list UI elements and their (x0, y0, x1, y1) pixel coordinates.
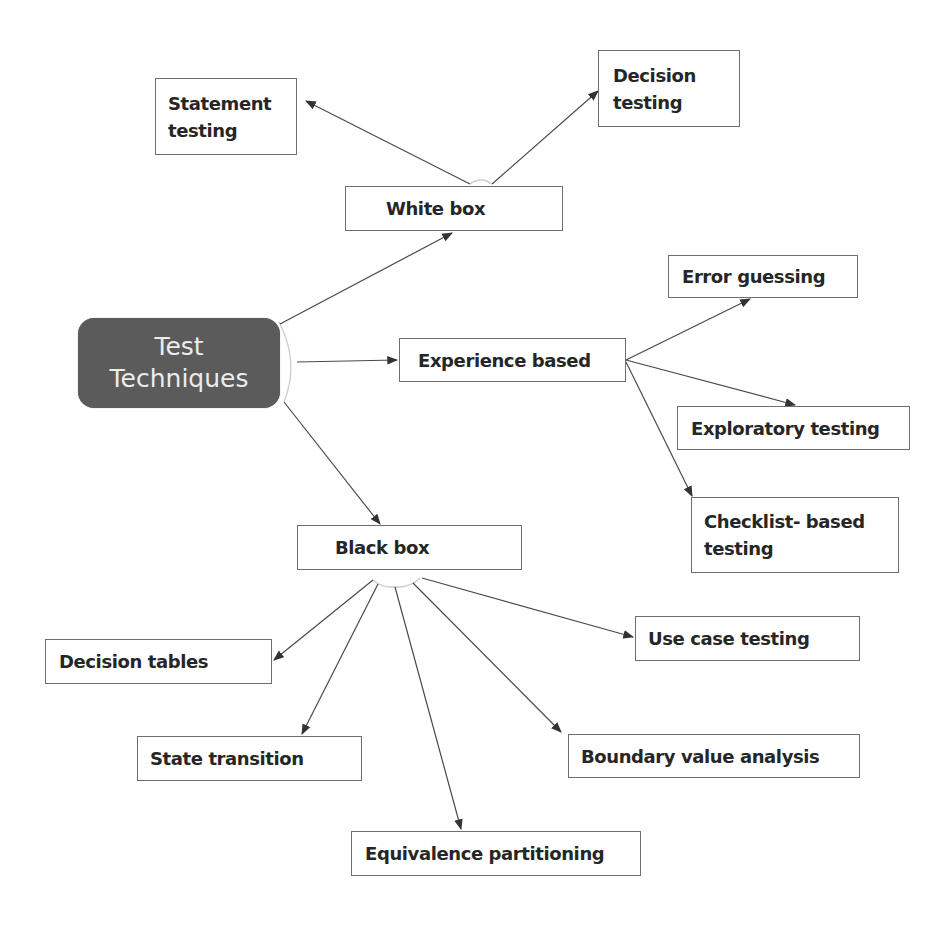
node-black-box-label: Black box (335, 534, 429, 561)
node-error-guessing-label: Error guessing (682, 263, 825, 290)
root-label-line1: Test (154, 331, 203, 363)
link-blackbox-boundary (413, 583, 561, 732)
node-statement-testing[interactable]: Statement testing (155, 78, 297, 155)
node-checklist-line1: Checklist- based (704, 508, 865, 535)
node-decision-line2: testing (613, 89, 682, 116)
link-experience-exploratory (626, 360, 795, 405)
link-blackbox-equivalence (395, 587, 461, 829)
link-whitebox-statement (306, 101, 470, 184)
node-white-box[interactable]: White box (345, 186, 563, 231)
node-white-box-label: White box (386, 195, 485, 222)
node-decision-line1: Decision (613, 62, 696, 89)
link-whitebox-decision (492, 91, 598, 184)
node-decision-tables[interactable]: Decision tables (45, 639, 272, 684)
root-label-line2: Techniques (110, 363, 249, 395)
node-checklist-based-testing[interactable]: Checklist- based testing (691, 497, 899, 573)
connector-lines (0, 0, 952, 925)
node-use-case-testing[interactable]: Use case testing (635, 616, 860, 661)
node-boundary-label: Boundary value analysis (581, 743, 819, 770)
link-blackbox-decisiontables (274, 580, 373, 660)
node-use-case-label: Use case testing (648, 625, 809, 652)
root-bracket (279, 322, 291, 402)
node-decision-testing[interactable]: Decision testing (598, 50, 740, 127)
link-root-blackbox (284, 402, 380, 524)
node-statement-line1: Statement (168, 90, 271, 117)
node-decision-tables-label: Decision tables (59, 648, 208, 675)
link-root-experience (297, 360, 397, 362)
node-equivalence-partitioning[interactable]: Equivalence partitioning (351, 831, 641, 876)
node-statement-line2: testing (168, 117, 237, 144)
node-state-transition[interactable]: State transition (137, 736, 362, 781)
link-experience-error (626, 299, 750, 360)
mind-map-canvas: Test Techniques White box Statement test… (0, 0, 952, 925)
node-exploratory-label: Exploratory testing (691, 415, 880, 442)
link-blackbox-state (302, 584, 378, 734)
node-equivalence-label: Equivalence partitioning (365, 840, 604, 867)
node-black-box[interactable]: Black box (297, 525, 522, 570)
node-experience-label: Experience based (418, 347, 591, 374)
node-exploratory-testing[interactable]: Exploratory testing (677, 406, 910, 450)
link-blackbox-usecase (422, 578, 633, 637)
node-boundary-value-analysis[interactable]: Boundary value analysis (568, 734, 860, 778)
node-checklist-line2: testing (704, 535, 773, 562)
root-node-test-techniques[interactable]: Test Techniques (78, 318, 280, 408)
node-experience-based[interactable]: Experience based (399, 338, 626, 382)
node-error-guessing[interactable]: Error guessing (668, 255, 858, 298)
node-state-transition-label: State transition (150, 745, 304, 772)
link-root-whitebox (280, 233, 452, 324)
